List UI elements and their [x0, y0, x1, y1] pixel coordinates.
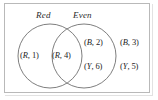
element-even-only-b2: (B, 2) — [84, 37, 103, 47]
paren-close: ) — [100, 37, 103, 47]
element-outside-b3: (B, 3) — [120, 37, 139, 47]
set-label-even: Even — [73, 10, 92, 20]
set-label-red: Red — [36, 10, 51, 20]
element-intersection-r4: (R, 4) — [52, 50, 71, 60]
paren-close: ) — [100, 61, 103, 71]
element-even-only-y6: (Y, 6) — [84, 61, 102, 71]
venn-diagram-figure: Red Even (R, 1) (R, 4) (B, 2) (Y, 6) (B,… — [0, 0, 158, 100]
paren-close: ) — [136, 61, 139, 71]
paren-close: ) — [36, 50, 39, 60]
element-red-only-r1: (R, 1) — [20, 50, 39, 60]
paren-close: ) — [136, 37, 139, 47]
paren-close: ) — [68, 50, 71, 60]
element-outside-y5: (Y, 5) — [120, 61, 138, 71]
